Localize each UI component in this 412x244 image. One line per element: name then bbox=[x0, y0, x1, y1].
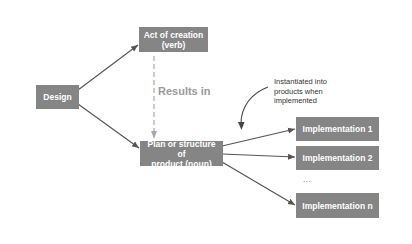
arrow-plan-to-impl-2 bbox=[222, 154, 295, 157]
node-design-label: Design bbox=[43, 92, 71, 102]
node-plan-structure-line1: Plan or structure of bbox=[144, 139, 219, 159]
node-implementation-n-label: Implementation n bbox=[302, 201, 372, 211]
node-plan-structure-line2: product (noun) bbox=[151, 159, 211, 169]
annotation-line-3: implemented bbox=[274, 96, 327, 106]
node-implementation-2: Implementation 2 bbox=[296, 146, 379, 170]
node-design: Design bbox=[36, 85, 79, 109]
node-act-of-creation-line2: (verb) bbox=[162, 40, 186, 50]
arrow-plan-to-impl-1 bbox=[222, 129, 295, 146]
results-in-label: Results in bbox=[158, 85, 211, 97]
annotation-line-1: Instantiated into bbox=[274, 77, 327, 87]
arrow-design-to-plan bbox=[78, 104, 139, 148]
curved-annotation-arrow bbox=[241, 87, 268, 124]
node-implementation-1: Implementation 1 bbox=[296, 117, 379, 141]
arrow-design-to-act bbox=[78, 45, 138, 90]
node-implementation-2-label: Implementation 2 bbox=[303, 153, 373, 163]
node-act-of-creation: Act of creation (verb) bbox=[139, 27, 208, 52]
node-implementation-n: Implementation n bbox=[296, 193, 379, 218]
node-plan-structure: Plan or structure of product (noun) bbox=[140, 141, 223, 166]
node-act-of-creation-line1: Act of creation bbox=[144, 30, 204, 40]
annotation-line-2: products when bbox=[274, 87, 327, 97]
design-diagram: Design Act of creation (verb) Results in… bbox=[0, 0, 412, 244]
ellipsis: ... bbox=[303, 175, 311, 184]
annotation-instantiated: Instantiated into products when implemen… bbox=[274, 77, 327, 106]
curved-arrowhead-icon bbox=[238, 122, 245, 130]
arrow-plan-to-impl-n bbox=[222, 162, 295, 205]
node-implementation-1-label: Implementation 1 bbox=[303, 124, 373, 134]
